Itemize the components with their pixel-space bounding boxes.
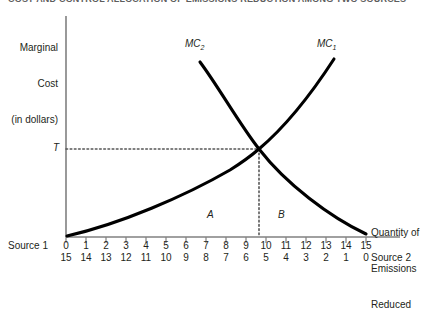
source2-tick-value: 5 — [256, 252, 276, 263]
x-axis-label-line-2: Emissions — [371, 263, 433, 275]
equilibrium-price-label: T — [53, 142, 59, 153]
mc2-text: MC — [185, 38, 201, 49]
source1-tick-value: 15 — [356, 240, 376, 251]
x-axis-label-line-1: Quantity of — [371, 227, 433, 239]
source1-tick-value: 14 — [336, 240, 356, 251]
source2-tick-value: 2 — [316, 252, 336, 263]
source1-tick-value: 2 — [96, 240, 116, 251]
region-a-label: A — [207, 209, 214, 220]
source2-axis-label: Source 2 — [371, 252, 411, 263]
source1-tick-value: 11 — [276, 240, 296, 251]
source1-tick-value: 3 — [116, 240, 136, 251]
source1-tick-value: 1 — [76, 240, 96, 251]
source1-tick-value: 12 — [296, 240, 316, 251]
source2-tick-value: 0 — [356, 252, 376, 263]
source2-tick-value: 12 — [116, 252, 136, 263]
source2-tick-value: 6 — [236, 252, 256, 263]
source2-tick-value: 13 — [96, 252, 116, 263]
y-axis-label-line-1: Marginal — [6, 42, 58, 54]
source2-tick-value: 9 — [176, 252, 196, 263]
source2-tick-value: 3 — [296, 252, 316, 263]
mc2-curve-label: MC2 — [185, 38, 204, 53]
y-axis-label-line-2: Cost — [6, 78, 58, 90]
source1-tick-value: 13 — [316, 240, 336, 251]
source1-tick-value: 6 — [176, 240, 196, 251]
mc2-subscript: 2 — [201, 44, 205, 51]
mc1-curve-label: MC1 — [317, 38, 336, 53]
source2-tick-value: 8 — [196, 252, 216, 263]
source1-tick-value: 8 — [216, 240, 236, 251]
source1-tick-value: 7 — [196, 240, 216, 251]
source2-tick-value: 14 — [76, 252, 96, 263]
source2-tick-value: 10 — [156, 252, 176, 263]
source1-tick-value: 5 — [156, 240, 176, 251]
mc1-text: MC — [317, 38, 333, 49]
source1-axis-label: Source 1 — [8, 240, 48, 251]
source1-tick-value: 0 — [56, 240, 76, 251]
source2-tick-value: 11 — [136, 252, 156, 263]
x-axis-label-line-3: Reduced — [371, 299, 433, 311]
source2-tick-value: 4 — [276, 252, 296, 263]
source2-tick-value: 1 — [336, 252, 356, 263]
y-axis-label: Marginal Cost (in dollars) — [6, 18, 58, 150]
source2-tick-value: 7 — [216, 252, 236, 263]
y-axis-label-line-3: (in dollars) — [6, 114, 58, 126]
source1-tick-value: 4 — [136, 240, 156, 251]
source1-tick-value: 10 — [256, 240, 276, 251]
source2-tick-value: 15 — [56, 252, 76, 263]
mc1-subscript: 1 — [333, 44, 337, 51]
mc1-curve — [67, 59, 334, 236]
source1-tick-value: 9 — [236, 240, 256, 251]
region-b-label: B — [278, 209, 285, 220]
